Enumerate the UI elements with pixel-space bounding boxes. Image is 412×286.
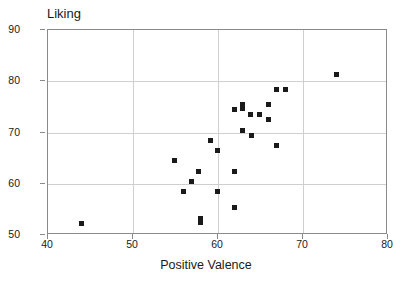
x-axis-label: Positive Valence bbox=[0, 258, 412, 272]
scatter-point bbox=[232, 169, 237, 174]
y-tick-label: 50 bbox=[0, 229, 20, 239]
scatter-point bbox=[240, 128, 245, 133]
scatter-point bbox=[266, 102, 271, 107]
scatter-plot-figure: Liking 50607080904050607080 Positive Val… bbox=[0, 0, 412, 286]
scatter-point bbox=[181, 189, 186, 194]
y-tick-mark bbox=[40, 29, 45, 30]
gridline-vertical bbox=[303, 30, 304, 233]
scatter-point bbox=[215, 189, 220, 194]
x-tick-label: 40 bbox=[27, 239, 67, 250]
scatter-point bbox=[249, 133, 254, 138]
gridline-vertical bbox=[133, 30, 134, 233]
y-tick-label: 70 bbox=[0, 127, 20, 137]
scatter-point bbox=[208, 138, 213, 143]
gridline-horizontal bbox=[48, 133, 386, 134]
scatter-point bbox=[248, 112, 253, 117]
y-tick-label: 80 bbox=[0, 75, 20, 85]
scatter-point bbox=[196, 169, 201, 174]
scatter-point bbox=[215, 148, 220, 153]
x-tick-label: 70 bbox=[282, 239, 322, 250]
y-tick-mark bbox=[40, 234, 45, 235]
chart-title: Liking bbox=[47, 6, 81, 21]
y-tick-label: 90 bbox=[0, 24, 20, 34]
scatter-point bbox=[172, 158, 177, 163]
gridline-horizontal bbox=[48, 184, 386, 185]
scatter-point bbox=[257, 112, 262, 117]
x-tick-label: 60 bbox=[197, 239, 237, 250]
scatter-point bbox=[334, 72, 339, 77]
x-tick-label: 80 bbox=[367, 239, 407, 250]
gridline-horizontal bbox=[48, 81, 386, 82]
scatter-point bbox=[240, 106, 245, 111]
scatter-point bbox=[274, 143, 279, 148]
scatter-point bbox=[189, 179, 194, 184]
y-tick-mark bbox=[40, 132, 45, 133]
scatter-point bbox=[232, 107, 237, 112]
x-tick-label: 50 bbox=[112, 239, 152, 250]
scatter-point bbox=[266, 117, 271, 122]
scatter-point bbox=[198, 220, 203, 225]
y-tick-label: 60 bbox=[0, 178, 20, 188]
gridline-vertical bbox=[218, 30, 219, 233]
y-tick-mark bbox=[40, 80, 45, 81]
scatter-point bbox=[283, 87, 288, 92]
scatter-point bbox=[79, 221, 84, 226]
y-tick-mark bbox=[40, 183, 45, 184]
scatter-point bbox=[274, 87, 279, 92]
scatter-point bbox=[232, 205, 237, 210]
plot-area bbox=[47, 29, 387, 234]
